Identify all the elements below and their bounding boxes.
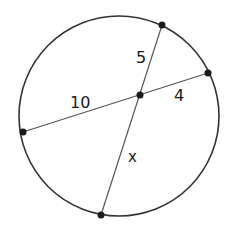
circle bbox=[19, 16, 219, 216]
point-left bbox=[20, 129, 27, 136]
chord-diagram: 5 4 10 x bbox=[0, 0, 233, 234]
label-segment-left: 10 bbox=[70, 93, 90, 112]
chord-top-bottom bbox=[101, 25, 162, 215]
point-top bbox=[159, 22, 166, 29]
point-intersection bbox=[137, 92, 144, 99]
label-segment-top: 5 bbox=[136, 48, 146, 67]
label-segment-bottom: x bbox=[128, 148, 137, 166]
point-bottom bbox=[98, 212, 105, 219]
diagram-stage: 5 4 10 x bbox=[0, 0, 233, 234]
point-right bbox=[205, 70, 212, 77]
label-segment-right: 4 bbox=[174, 86, 184, 105]
